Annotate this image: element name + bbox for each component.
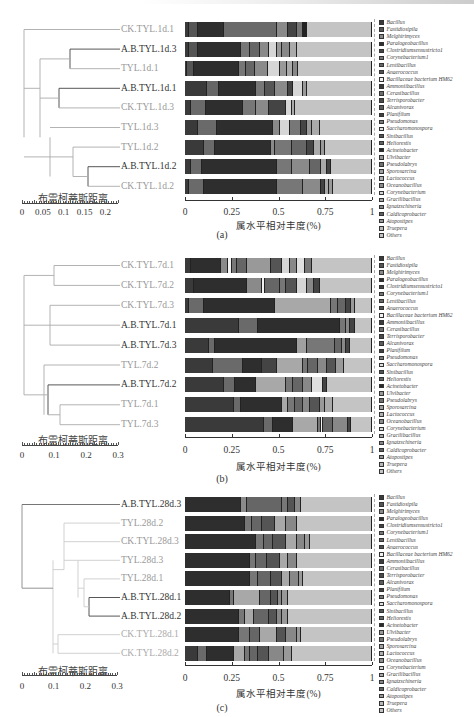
bar-segment <box>297 534 304 549</box>
scale-tick-label: 0 <box>20 681 25 691</box>
bar-row <box>185 646 372 661</box>
bar-segment <box>303 571 372 586</box>
scale-minor-tick <box>36 673 37 675</box>
legend-label: Paralogeobacillus <box>387 515 428 522</box>
bar-segment <box>239 627 250 642</box>
scale-minor-tick <box>72 673 73 675</box>
legend-label: Ignatzschineria <box>387 678 422 685</box>
sample-label: CK.TYL.28d.2 <box>121 648 179 659</box>
bar-row <box>185 497 372 512</box>
legend-label: Cerasibacillus <box>387 565 420 572</box>
bar-segment <box>250 627 259 642</box>
scale-minor-tick <box>22 672 23 675</box>
scale-minor-tick <box>93 672 94 675</box>
legend-swatch <box>379 630 384 635</box>
scale-minor-tick <box>65 673 66 675</box>
bar-segment <box>264 534 273 549</box>
sample-label: TYL.28d.2 <box>121 518 163 529</box>
x-tick <box>185 662 186 665</box>
legend-swatch <box>379 602 384 607</box>
bar-row <box>185 627 372 642</box>
scale-tick-label: 0.1 <box>48 681 59 691</box>
scale-minor-tick <box>112 673 113 675</box>
scale-minor-tick <box>81 672 82 675</box>
x-tick-label: 0 <box>183 673 188 683</box>
scale-minor-tick <box>77 673 78 675</box>
scale-minor-tick <box>62 673 63 675</box>
legend-swatch <box>379 517 384 522</box>
bar-segment <box>185 553 250 568</box>
x-axis-label: 属水平相对丰度(%) <box>236 686 320 700</box>
scale-minor-tick <box>51 673 52 675</box>
bar-row <box>185 534 372 549</box>
scale-minor-tick <box>39 673 40 675</box>
bar-segment <box>185 571 250 586</box>
legend-label: Clostridiumsensustricto1 <box>387 522 443 529</box>
bar-segment <box>271 590 278 605</box>
scale-minor-tick <box>100 673 101 675</box>
legend-swatch <box>379 694 384 699</box>
legend-item: Sporosarcina <box>379 643 453 650</box>
bar-row <box>185 590 372 605</box>
scale-minor-tick <box>86 673 87 675</box>
bar-segment <box>275 516 286 531</box>
bar-segment <box>282 571 289 586</box>
legend-label: Planifilum <box>387 586 411 593</box>
legend-item: Caldicoprobacter <box>379 686 453 693</box>
bar-segment <box>269 609 276 624</box>
scale-tick-label: 0.3 <box>111 681 122 691</box>
legend-label: Lentibacillus <box>387 537 416 544</box>
legend-item: Heliorestis <box>379 615 453 622</box>
legend-swatch <box>379 559 384 564</box>
scale-minor-tick <box>55 673 56 675</box>
scale-minor-tick <box>67 673 68 675</box>
bar-segment <box>288 590 372 605</box>
legend-swatch <box>379 651 384 656</box>
bar-row <box>185 553 372 568</box>
bar-segment <box>292 646 372 661</box>
legend-label: Fastidiosipila <box>387 501 418 508</box>
legend-swatch <box>379 509 384 514</box>
bar-segment <box>256 553 267 568</box>
scale-minor-tick <box>115 673 116 675</box>
legend-frame <box>374 494 375 661</box>
bar-segment <box>267 553 280 568</box>
legend-swatch <box>379 531 384 536</box>
legend-item: Alcanivorax <box>379 579 453 586</box>
bar-segment <box>301 497 372 512</box>
sample-label: CK.TYL.28d.3 <box>121 536 179 547</box>
scale-minor-tick <box>89 673 90 675</box>
bar-segment <box>277 627 286 642</box>
scale-minor-tick <box>43 673 44 675</box>
legend-label: Lactococcus <box>387 650 415 657</box>
scale-minor-tick <box>117 672 118 675</box>
legend-swatch <box>379 701 384 706</box>
legend-swatch <box>379 666 384 671</box>
scale-minor-tick <box>60 673 61 675</box>
legend-item: Anaerococcus <box>379 544 453 551</box>
bar-segment <box>262 516 275 531</box>
scale-minor-tick <box>53 673 54 675</box>
legend-item: Saccharomonospora <box>379 600 453 607</box>
bar-segment <box>245 609 254 624</box>
legend-label: Sinibacillus <box>387 608 413 615</box>
bar-segment <box>286 534 297 549</box>
legend-item: Ulvibacter <box>379 629 453 636</box>
legend-label: Ulvibacter <box>387 629 411 636</box>
scale-minor-tick <box>103 673 104 675</box>
legend-item: Truepera <box>379 700 453 707</box>
bar-segment <box>185 516 245 531</box>
legend-label: Oceanobacillus <box>387 657 422 664</box>
bar-segment <box>185 609 239 624</box>
x-tick-label: 1 <box>370 673 375 683</box>
bar-segment <box>301 627 372 642</box>
legend-swatch <box>379 566 384 571</box>
legend-item: Others <box>379 707 453 714</box>
scale-minor-tick <box>105 672 106 675</box>
bar-segment <box>260 627 277 642</box>
x-tick <box>279 662 280 665</box>
legend-swatch <box>379 687 384 692</box>
legend-item: Melghirimyces <box>379 508 453 515</box>
legend-label: Atopostipes <box>387 693 413 700</box>
bar-segment <box>185 497 241 512</box>
